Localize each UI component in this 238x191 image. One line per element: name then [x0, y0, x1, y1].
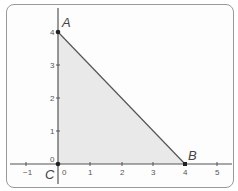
- point-c-label: C: [45, 167, 55, 182]
- y-tick-label: 2: [50, 94, 55, 103]
- x-tick-label: 2: [120, 168, 125, 177]
- y-tick-label: 4: [50, 28, 55, 37]
- x-tick-label: 3: [151, 168, 156, 177]
- point-b: [183, 162, 187, 166]
- x-tick-label: −1: [23, 168, 33, 177]
- y-tick-label: 3: [50, 61, 55, 70]
- x-tick-label: 5: [215, 168, 220, 177]
- y-tick-label: 0: [50, 155, 55, 164]
- point-a-label: A: [61, 15, 71, 30]
- x-tick-label: 1: [88, 168, 93, 177]
- point-b-label: B: [188, 148, 197, 163]
- y-tick-label: 1: [50, 127, 55, 136]
- coordinate-plane: −1 0 1 2 3 4 5 0 1 2 3 4 A B C: [0, 0, 238, 191]
- point-a: [56, 30, 61, 35]
- point-c: [56, 162, 61, 167]
- x-tick-label: 0: [62, 168, 67, 177]
- x-tick-label: 4: [183, 168, 188, 177]
